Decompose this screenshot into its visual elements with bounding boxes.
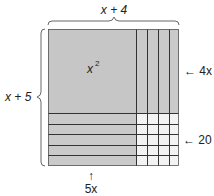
left-brace <box>37 29 45 166</box>
x-strips-horizontal <box>48 113 136 166</box>
x-squared-label: x <box>86 62 94 76</box>
unit-tiles <box>136 113 179 166</box>
top-brace <box>48 17 179 25</box>
top-dimension-label: x + 4 <box>100 3 128 17</box>
up-arrow-icon: ↑ <box>88 169 94 183</box>
left-dimension-label: x + 5 <box>4 90 32 104</box>
x-squared-exponent: 2 <box>95 59 100 68</box>
20-label: ← 20 <box>183 133 212 147</box>
algebra-tile-diagram: x + 4 x + 5 x 2 ← 4x ← 20 ↑ 5x <box>0 0 214 196</box>
x-strips-vertical <box>136 29 179 113</box>
5x-label: 5x <box>85 182 98 196</box>
4x-label: ← 4x <box>184 64 212 78</box>
